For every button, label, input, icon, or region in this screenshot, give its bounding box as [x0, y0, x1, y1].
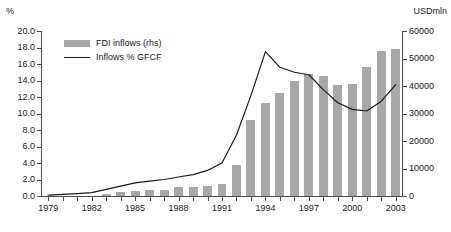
- x-axis-tick: [367, 197, 368, 201]
- fdi-inflows-chart: % USDmln 0.02.04.06.08.010.012.014.016.0…: [0, 0, 451, 232]
- x-axis-tick-label: 1997: [289, 204, 329, 213]
- right-axis-tick-label: 60000: [409, 27, 434, 36]
- x-axis-tick: [338, 197, 339, 201]
- left-axis-tick-label: 6.0: [22, 142, 35, 151]
- legend-item-line: Inflows % GFCF: [64, 50, 162, 64]
- x-axis-tick: [309, 197, 310, 201]
- right-axis-tick: [403, 141, 407, 142]
- right-axis-tick: [403, 196, 407, 197]
- left-axis-tick-label: 8.0: [22, 126, 35, 135]
- right-axis-tick: [403, 169, 407, 170]
- right-axis-unit-label: USDmln: [413, 6, 447, 16]
- right-axis-tick: [403, 31, 407, 32]
- chart-legend: FDI inflows (rhs) Inflows % GFCF: [64, 36, 162, 64]
- right-axis-tick-label: 10000: [409, 164, 434, 173]
- x-axis-tick: [352, 197, 353, 201]
- x-axis-tick: [121, 197, 122, 201]
- left-axis-tick-label: 18.0: [17, 43, 35, 52]
- x-axis-tick: [381, 197, 382, 201]
- x-axis-tick-label: 1985: [115, 204, 155, 213]
- x-axis-tick: [208, 197, 209, 201]
- x-axis-tick-label: 1988: [159, 204, 199, 213]
- left-axis-tick-label: 16.0: [17, 60, 35, 69]
- left-axis-tick-label: 2.0: [22, 175, 35, 184]
- right-axis-tick: [403, 86, 407, 87]
- x-axis-tick: [150, 197, 151, 201]
- x-axis-tick: [164, 197, 165, 201]
- right-axis-tick-label: 50000: [409, 54, 434, 63]
- left-axis-tick-label: 0.0: [22, 192, 35, 201]
- left-axis-tick-label: 12.0: [17, 93, 35, 102]
- left-axis-tick-label: 4.0: [22, 159, 35, 168]
- x-axis-tick: [236, 197, 237, 201]
- x-axis-tick: [179, 197, 180, 201]
- left-axis-unit-label: %: [6, 6, 14, 16]
- x-axis-tick: [294, 197, 295, 201]
- left-axis-tick-label: 14.0: [17, 76, 35, 85]
- x-axis-tick: [323, 197, 324, 201]
- x-axis-tick-label: 1979: [28, 204, 68, 213]
- x-axis-tick: [135, 197, 136, 201]
- right-axis-tick-label: 20000: [409, 137, 434, 146]
- x-axis-tick: [92, 197, 93, 201]
- x-axis-tick-label: 1991: [202, 204, 242, 213]
- right-axis-tick-label: 40000: [409, 82, 434, 91]
- right-axis-tick: [403, 59, 407, 60]
- right-axis-tick-label: 30000: [409, 109, 434, 118]
- legend-bar-swatch-icon: [64, 40, 90, 47]
- x-axis-tick: [48, 197, 49, 201]
- x-axis-tick: [63, 197, 64, 201]
- x-axis-tick: [265, 197, 266, 201]
- x-axis-tick: [251, 197, 252, 201]
- x-axis-tick: [77, 197, 78, 201]
- x-axis-tick: [280, 197, 281, 201]
- x-axis-tick-label: 2000: [332, 204, 372, 213]
- right-axis-tick-label: 0: [409, 192, 414, 201]
- x-axis-tick-label: 1982: [72, 204, 112, 213]
- line-path: [48, 52, 396, 196]
- left-axis-tick-label: 10.0: [17, 109, 35, 118]
- legend-line-label: Inflows % GFCF: [96, 51, 162, 63]
- legend-bar-label: FDI inflows (rhs): [96, 37, 162, 49]
- x-axis-tick: [396, 197, 397, 201]
- x-axis-tick: [222, 197, 223, 201]
- x-axis-tick: [106, 197, 107, 201]
- x-axis-tick-label: 1994: [245, 204, 285, 213]
- right-axis-tick: [403, 114, 407, 115]
- legend-line-swatch-icon: [64, 54, 90, 61]
- x-axis-tick-label: 2003: [376, 204, 416, 213]
- x-axis-tick: [193, 197, 194, 201]
- left-axis-tick-label: 20.0: [17, 27, 35, 36]
- legend-item-bar: FDI inflows (rhs): [64, 36, 162, 50]
